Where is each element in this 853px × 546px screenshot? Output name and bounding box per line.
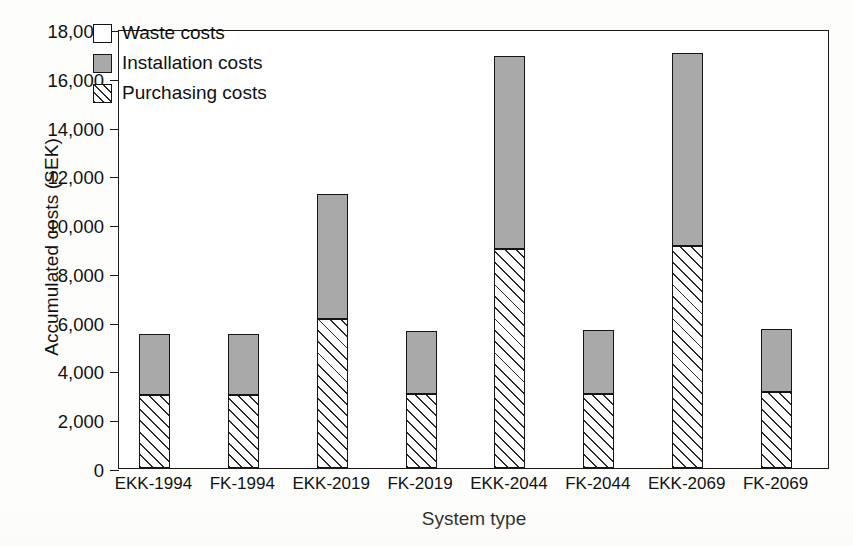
bar-segment-purchasing[interactable] <box>761 392 792 468</box>
bar-fk-2044[interactable] <box>583 330 614 468</box>
bar-segment-purchasing[interactable] <box>317 319 348 468</box>
x-axis-tick-label: EKK-2069 <box>642 474 731 494</box>
y-axis-tick-label: 12,000 <box>47 167 104 189</box>
y-axis-tick: 14,000 <box>110 129 119 130</box>
chart-figure: Accumulated costs (SEK) 02,0004,0006,000… <box>0 0 853 546</box>
y-axis-tick: 6,000 <box>110 324 119 325</box>
legend-item[interactable]: Waste costs <box>93 18 267 48</box>
bar-segment-purchasing[interactable] <box>139 395 170 468</box>
legend-swatch-icon <box>93 54 112 73</box>
y-axis-tick: 10,000 <box>110 226 119 227</box>
y-axis-tick-label: 4,000 <box>58 362 104 384</box>
legend-label: Purchasing costs <box>122 82 267 104</box>
x-axis-tick-label: FK-2069 <box>731 474 820 494</box>
bar-segment-installation[interactable] <box>583 330 614 393</box>
chart-legend: Waste costsInstallation costsPurchasing … <box>93 18 267 108</box>
bar-ekk-1994[interactable] <box>139 334 170 468</box>
bar-segment-installation[interactable] <box>672 53 703 246</box>
bar-ekk-2044[interactable] <box>494 56 525 468</box>
bar-segment-purchasing[interactable] <box>494 249 525 469</box>
y-axis-tick: 8,000 <box>110 275 119 276</box>
x-axis-tick-label: FK-2019 <box>376 474 465 494</box>
bar-segment-purchasing[interactable] <box>672 246 703 468</box>
y-axis-tick: 12,000 <box>110 177 119 178</box>
legend-item[interactable]: Purchasing costs <box>93 78 267 108</box>
y-axis-tick-label: 8,000 <box>58 265 104 287</box>
y-axis-title: Accumulated costs (SEK) <box>41 37 63 457</box>
y-axis-tick: 4,000 <box>110 372 119 373</box>
legend-swatch-icon <box>93 24 112 43</box>
y-axis-tick-label: 10,000 <box>47 216 104 238</box>
x-axis-tick-label: EKK-1994 <box>109 474 198 494</box>
x-axis-tick-label: FK-2044 <box>553 474 642 494</box>
bar-ekk-2069[interactable] <box>672 53 703 468</box>
y-axis-tick: 2,000 <box>110 421 119 422</box>
y-axis-tick: 0 <box>110 470 119 471</box>
bar-segment-installation[interactable] <box>494 56 525 249</box>
bar-fk-1994[interactable] <box>228 334 259 468</box>
legend-swatch-icon <box>93 84 112 103</box>
bar-segment-installation[interactable] <box>228 334 259 395</box>
y-axis-tick-label: 6,000 <box>58 314 104 336</box>
y-axis-tick-label: 0 <box>94 460 104 482</box>
bar-segment-purchasing[interactable] <box>583 394 614 468</box>
legend-label: Waste costs <box>122 22 225 44</box>
bar-ekk-2019[interactable] <box>317 194 348 468</box>
bar-segment-installation[interactable] <box>761 329 792 392</box>
y-axis-tick-label: 14,000 <box>47 119 104 141</box>
y-axis-tick-label: 2,000 <box>58 411 104 433</box>
x-axis-title: System type <box>118 508 830 530</box>
bar-fk-2019[interactable] <box>406 331 437 468</box>
x-axis-tick-label: EKK-2019 <box>287 474 376 494</box>
bar-fk-2069[interactable] <box>761 329 792 468</box>
bar-segment-installation[interactable] <box>317 194 348 320</box>
x-axis-tick-label: FK-1994 <box>198 474 287 494</box>
bar-segment-installation[interactable] <box>406 331 437 393</box>
legend-item[interactable]: Installation costs <box>93 48 267 78</box>
bar-segment-purchasing[interactable] <box>228 395 259 468</box>
bar-segment-installation[interactable] <box>139 334 170 395</box>
x-axis-tick-label: EKK-2044 <box>465 474 554 494</box>
legend-label: Installation costs <box>122 52 262 74</box>
bar-segment-purchasing[interactable] <box>406 394 437 468</box>
